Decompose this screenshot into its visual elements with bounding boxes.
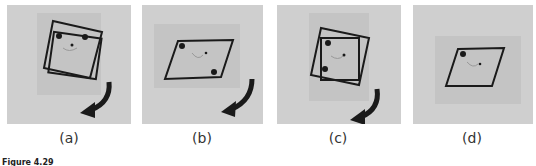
panel-c-illustration (277, 5, 401, 124)
panel-c (277, 5, 401, 124)
panel-b (142, 5, 263, 124)
panel-d-illustration (413, 5, 533, 124)
panel-a-label: (a) (9, 130, 129, 146)
panel-b-label: (b) (142, 130, 262, 146)
panel-a-illustration (7, 5, 131, 124)
panel-a (7, 5, 131, 124)
panel-b-illustration (142, 5, 263, 124)
panel-d (413, 5, 533, 124)
panel-c-label: (c) (278, 130, 398, 146)
figure-caption: Figure 4.29 (2, 158, 54, 166)
panel-d-label: (d) (412, 130, 532, 146)
